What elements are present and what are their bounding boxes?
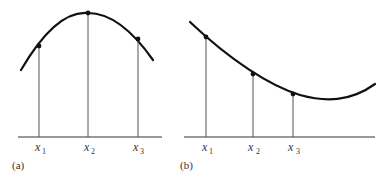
label-b-x1-sub: 1 [209, 147, 213, 156]
curve-b [190, 22, 375, 99]
label-a-x3: x [132, 140, 139, 154]
label-b-x3-sub: 3 [296, 147, 300, 156]
point-b-x3 [291, 92, 296, 97]
point-b-x2 [251, 72, 256, 77]
figure-canvas: x 1 x 2 x 3 (a) x 1 x 2 x 3 (b) [0, 0, 387, 184]
point-a-x3 [136, 37, 141, 42]
label-b-x2: x [247, 140, 254, 154]
label-a-x3-sub: 3 [140, 147, 144, 156]
caption-b: (b) [180, 159, 193, 172]
caption-a: (a) [12, 159, 25, 172]
label-b-x2-sub: 2 [256, 147, 260, 156]
label-b-x3: x [287, 140, 294, 154]
label-b-x1: x [201, 140, 208, 154]
panel-b: x 1 x 2 x 3 (b) [180, 22, 375, 172]
label-a-x1-sub: 1 [42, 147, 46, 156]
point-b-x1 [204, 35, 209, 40]
panel-a: x 1 x 2 x 3 (a) [12, 11, 162, 172]
label-a-x2: x [83, 140, 90, 154]
curve-a [21, 13, 153, 70]
point-a-x2 [86, 11, 91, 16]
label-a-x2-sub: 2 [91, 147, 95, 156]
point-a-x1 [37, 44, 42, 49]
label-a-x1: x [34, 140, 41, 154]
